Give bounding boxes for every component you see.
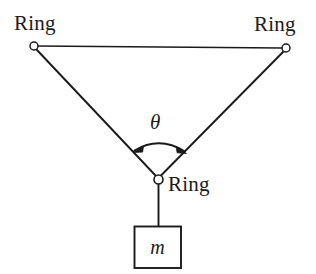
label-ring-bottom: Ring bbox=[168, 174, 210, 195]
ring-top-right-icon bbox=[282, 44, 290, 52]
physics-diagram-figure: Ring Ring Ring θ m bbox=[0, 0, 316, 274]
angle-arc-arrowhead-left bbox=[133, 146, 144, 152]
label-angle-theta: θ bbox=[150, 112, 161, 133]
cord-left-diagonal bbox=[37, 50, 156, 176]
cord-top-horizontal bbox=[37, 46, 282, 48]
ring-top-left-icon bbox=[30, 42, 38, 50]
cord-right-diagonal bbox=[161, 52, 284, 176]
label-ring-top-right: Ring bbox=[254, 14, 296, 35]
label-ring-top-left: Ring bbox=[14, 13, 56, 34]
ring-bottom-icon bbox=[154, 175, 163, 184]
label-mass-m: m bbox=[134, 226, 181, 268]
